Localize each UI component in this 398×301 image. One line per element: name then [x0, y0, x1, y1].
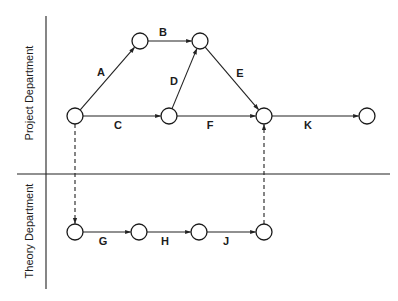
event-node-n5: [256, 108, 272, 124]
activity-label-e: E: [236, 67, 243, 79]
activity-label-f: F: [207, 119, 214, 131]
activity-label-h: H: [161, 235, 169, 247]
event-node-t2: [131, 224, 147, 240]
event-node-n3: [192, 33, 208, 49]
lane-label-theory: Theory Department: [23, 184, 35, 279]
event-node-t3: [191, 224, 207, 240]
activity-label-j: J: [223, 235, 229, 247]
event-node-t4: [256, 224, 272, 240]
activity-label-k: K: [304, 119, 312, 131]
activity-label-g: G: [99, 235, 108, 247]
lane-label-project: Project Department: [23, 46, 35, 141]
activity-arrow-e: [205, 47, 258, 109]
event-node-n1: [67, 108, 83, 124]
lane-labels: Project DepartmentTheory Department: [23, 46, 35, 279]
activity-label-c: C: [114, 119, 122, 131]
activity-arrow-a: [80, 47, 134, 110]
event-node-t1: [67, 224, 83, 240]
activity-label-b: B: [159, 26, 167, 38]
activity-label-a: A: [97, 66, 105, 78]
activity-label-d: D: [170, 75, 178, 87]
activity-network-diagram: Project DepartmentTheory Department ABCD…: [0, 0, 398, 301]
event-node-n6: [359, 108, 375, 124]
event-node-n4: [161, 108, 177, 124]
event-node-n2: [132, 33, 148, 49]
lane-dividers: [17, 16, 390, 289]
activity-labels: ABCDEFKGHJ: [97, 26, 312, 247]
activity-arrows: [80, 41, 358, 232]
event-nodes: [67, 33, 375, 240]
